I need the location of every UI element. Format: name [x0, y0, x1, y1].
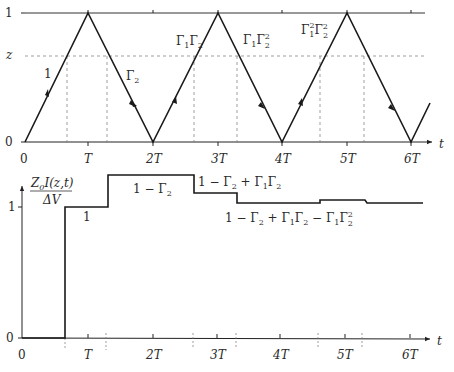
- top-xtick-label-0: 0: [20, 152, 28, 166]
- top-xtick-label-5T: 5T: [340, 152, 357, 166]
- segment-label-gamma1gamma2: Γ1Γ2: [176, 34, 203, 50]
- bottom-xtick-label-3T: 3T: [210, 348, 227, 362]
- top-xtick-label-6T: 6T: [404, 152, 421, 166]
- bottom-plot: Z0I(z,t) ΔV 1 0 0 T 2T 3T 4T 5T 6T t 1 1…: [6, 175, 442, 362]
- arrow-up-icon: [45, 89, 49, 97]
- step-label-2: 1 − Γ2: [133, 182, 172, 198]
- bottom-xtick-label-4T: 4T: [272, 348, 290, 362]
- arrow-up-icon: [298, 98, 303, 106]
- step-label-3: 1 − Γ2 + Γ1Γ2: [198, 175, 281, 191]
- bottom-xtick-label-0: 0: [18, 348, 26, 362]
- top-xtick-label-T: T: [84, 152, 93, 166]
- top-xtick-label-4T: 4T: [274, 152, 292, 166]
- bottom-xtick-label-6T: 6T: [402, 348, 419, 362]
- current-step-trace: [22, 175, 423, 338]
- top-ytick-label-1: 1: [5, 6, 13, 20]
- bottom-x-axis: [22, 338, 430, 339]
- bounce-path: [25, 13, 430, 142]
- bottom-xtick-label-5T: 5T: [337, 348, 354, 362]
- segment-label-1: 1: [44, 67, 52, 81]
- top-ytick-label-0: 0: [5, 135, 13, 149]
- bottom-y-label-numerator: Z0I(z,t): [30, 176, 74, 192]
- bottom-axis-label-t: t: [437, 334, 442, 348]
- top-plot: 1 z 0 0 T 2T 3T 4T 5T 6T t 1 Γ2 Γ1Γ2 Γ1Γ…: [5, 6, 444, 166]
- segment-label-gamma2: Γ2: [126, 69, 139, 85]
- top-ytick-label-z: z: [5, 48, 13, 62]
- bottom-ytick-label-1: 1: [8, 200, 16, 214]
- bottom-y-label-denominator: ΔV: [42, 193, 62, 207]
- segment-label-gamma1gamma2sq: Γ1Γ22: [243, 32, 270, 50]
- bottom-xtick-label-2T: 2T: [145, 348, 163, 362]
- top-xtick-label-3T: 3T: [211, 152, 228, 166]
- top-xtick-label-2T: 2T: [145, 152, 163, 166]
- figure: 1 z 0 0 T 2T 3T 4T 5T 6T t 1 Γ2 Γ1Γ2 Γ1Γ…: [0, 0, 454, 372]
- direction-arrows: [45, 89, 395, 111]
- top-axis-label-t: t: [439, 137, 444, 151]
- bottom-ytick-label-0: 0: [6, 331, 14, 345]
- bottom-xtick-label-T: T: [84, 348, 93, 362]
- step-label-4: 1 − Γ2 + Γ1Γ2 − Γ1Γ22: [225, 210, 353, 228]
- segment-label-gamma1sq-gamma2sq: Γ12Γ22: [301, 21, 328, 40]
- step-label-1: 1: [83, 210, 91, 224]
